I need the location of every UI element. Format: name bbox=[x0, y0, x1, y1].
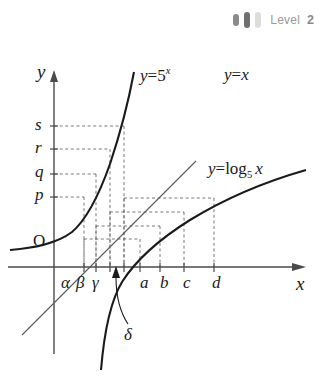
x-tick-label-b: b bbox=[160, 274, 169, 291]
log-label-lhs: y bbox=[208, 159, 216, 178]
exp-label-exponent: x bbox=[166, 65, 171, 76]
id-label-rhs: x bbox=[241, 65, 249, 84]
y-axis bbox=[50, 70, 58, 354]
y-tick-label-p: p bbox=[35, 186, 44, 203]
y-tick-label-r: r bbox=[35, 139, 42, 156]
level-label: Level bbox=[270, 13, 300, 27]
delta-pointer-leader bbox=[112, 266, 128, 324]
id-label-lhs: y bbox=[224, 65, 232, 84]
x-tick-label-beta: β bbox=[76, 274, 84, 291]
identity-line-curve bbox=[22, 161, 196, 335]
math-figure: y x O s r q p α β γ δ a b c d y=5x y=x y… bbox=[0, 34, 326, 378]
x-tick-label-delta: δ bbox=[124, 326, 132, 343]
log-label-fn: log bbox=[225, 159, 247, 178]
log-label-arg: x bbox=[252, 159, 263, 178]
level-value: 2 bbox=[307, 13, 314, 27]
origin-label: O bbox=[33, 232, 45, 249]
dashed-construction-lines bbox=[54, 126, 214, 267]
exponential-curve bbox=[10, 72, 134, 250]
y-axis-arrow-icon bbox=[50, 70, 58, 82]
y-tick-label-q: q bbox=[35, 163, 44, 180]
signal-bar-3-icon bbox=[255, 12, 261, 28]
x-tick-label-alpha: α bbox=[61, 274, 70, 291]
signal-bar-1-icon bbox=[233, 14, 239, 26]
x-tick-label-c: c bbox=[183, 274, 191, 291]
exponential-curve-label: y=5x bbox=[140, 66, 170, 84]
exp-label-equals: = bbox=[148, 66, 158, 85]
exp-label-base: 5 bbox=[157, 66, 166, 85]
id-label-equals: = bbox=[232, 65, 242, 84]
x-tick-label-a: a bbox=[140, 274, 149, 291]
x-tick-label-gamma: γ bbox=[92, 274, 99, 291]
x-axis bbox=[8, 263, 306, 271]
signal-bar-2-icon bbox=[244, 12, 250, 28]
graph-canvas bbox=[0, 34, 326, 378]
x-axis-arrow-icon bbox=[292, 263, 306, 271]
x-axis-label: x bbox=[296, 274, 304, 293]
y-tick-label-s: s bbox=[35, 116, 42, 133]
x-tick-label-d: d bbox=[212, 274, 221, 291]
log-label-equals: = bbox=[216, 159, 226, 178]
logarithm-curve-label: y=log5x bbox=[208, 160, 263, 181]
exp-label-lhs: y bbox=[140, 66, 148, 85]
delta-arrow-icon bbox=[112, 266, 120, 278]
level-indicator: Level 2 bbox=[233, 12, 314, 28]
y-axis-label: y bbox=[37, 62, 45, 81]
identity-curve-label: y=x bbox=[224, 66, 249, 83]
